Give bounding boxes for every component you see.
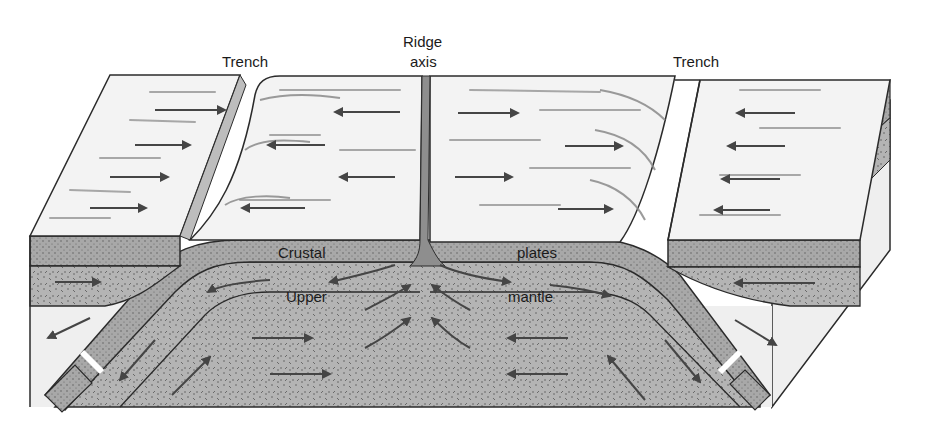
label-upper: Upper xyxy=(286,288,327,305)
plate-tectonics-diagram: Trench Ridge axis Trench Crustal plates … xyxy=(0,0,925,432)
label-mantle: mantle xyxy=(508,288,553,305)
label-trench-right: Trench xyxy=(673,53,719,70)
label-crustal: Crustal xyxy=(278,244,326,261)
label-ridge-line2: axis xyxy=(410,53,437,70)
label-trench-left: Trench xyxy=(222,53,268,70)
right-block-front xyxy=(668,240,860,306)
label-ridge-line1: Ridge xyxy=(403,33,442,50)
label-plates: plates xyxy=(517,244,557,261)
